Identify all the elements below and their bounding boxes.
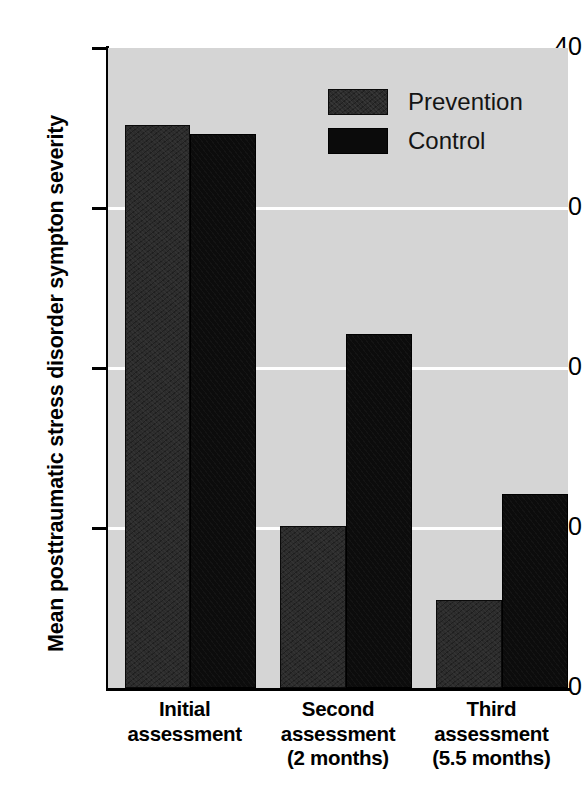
bar-prevention-initial [125, 125, 190, 688]
x-category-label-third: Third assessment (5.5 months) [415, 697, 568, 807]
x-category-label-initial: Initial assessment [108, 697, 261, 807]
x-category-third-line1: Third [466, 697, 516, 720]
legend-swatch-control [328, 128, 388, 154]
x-category-second-line1: Second [302, 697, 374, 720]
x-category-third-line3: (5.5 months) [415, 746, 568, 771]
x-category-second-line3: (2 months) [261, 746, 414, 771]
chart-legend: Prevention Control [328, 86, 523, 164]
legend-item-prevention: Prevention [328, 86, 523, 118]
bar-prevention-third [436, 600, 502, 688]
bar-control-third [502, 494, 568, 688]
bar-prevention-second [280, 526, 346, 688]
x-axis-line [106, 688, 570, 691]
bar-chart-figure: Mean posttraumatic stress disorder sympt… [0, 0, 582, 809]
y-axis-title: Mean posttraumatic stress disorder sympt… [44, 74, 69, 694]
legend-label-control: Control [408, 129, 485, 153]
x-category-initial-line1: Initial [159, 697, 210, 720]
legend-swatch-prevention [328, 89, 388, 115]
bar-control-initial [190, 134, 256, 688]
legend-item-control: Control [328, 125, 523, 157]
x-category-third-line2: assessment [415, 722, 568, 747]
x-axis-category-labels: Initial assessment Second assessment (2 … [108, 697, 568, 807]
x-category-label-second: Second assessment (2 months) [261, 697, 414, 807]
bar-control-second [346, 334, 412, 688]
x-category-second-line2: assessment [261, 722, 414, 747]
x-category-initial-line2: assessment [108, 722, 261, 747]
legend-label-prevention: Prevention [408, 90, 523, 114]
